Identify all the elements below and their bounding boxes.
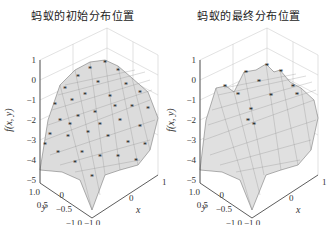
- z-tick: −1: [26, 95, 36, 105]
- z-tick: 0: [192, 75, 197, 85]
- svg-text:*: *: [124, 81, 128, 90]
- svg-text:*: *: [269, 91, 274, 101]
- z-tick: −4: [186, 155, 196, 165]
- svg-text:*: *: [106, 133, 110, 142]
- svg-text:*: *: [130, 103, 134, 112]
- svg-text:*: *: [76, 73, 80, 82]
- svg-text:*: *: [43, 141, 47, 150]
- svg-text:*: *: [83, 91, 87, 100]
- y-tick: −0.5: [56, 204, 73, 214]
- left-surface-plot: **** **** **** **** **** **** **** **** …: [0, 0, 166, 225]
- z-tick: −5: [186, 175, 196, 185]
- z-tick: −3: [186, 135, 196, 145]
- svg-text:*: *: [143, 141, 147, 150]
- svg-text:*: *: [68, 121, 72, 130]
- svg-text:*: *: [249, 105, 254, 115]
- svg-text:*: *: [93, 109, 97, 118]
- svg-text:*: *: [70, 97, 74, 106]
- x-axis-label: x: [295, 204, 301, 215]
- svg-text:*: *: [58, 117, 62, 126]
- x-tick: 1: [322, 177, 327, 187]
- z-axis-label: f(x, y): [3, 108, 15, 132]
- svg-text:*: *: [48, 131, 52, 140]
- svg-text:*: *: [244, 68, 249, 78]
- z-tick: 1: [192, 55, 197, 65]
- x-tick: 0: [289, 193, 294, 203]
- x-tick: 0: [129, 193, 134, 203]
- z-tick: −1: [186, 95, 196, 105]
- svg-text:*: *: [90, 173, 94, 182]
- svg-text:*: *: [265, 61, 270, 71]
- right-plot-panel: 蚂蚁的最终分布位置 **** **** ****: [166, 0, 332, 225]
- y-tick: −0.5: [216, 204, 233, 214]
- svg-text:*: *: [73, 159, 77, 168]
- svg-text:*: *: [257, 77, 262, 87]
- svg-text:*: *: [246, 116, 251, 126]
- svg-text:*: *: [76, 113, 80, 122]
- svg-text:*: *: [88, 65, 92, 74]
- y-tick: 0: [60, 190, 65, 200]
- y-axis-label: y: [201, 201, 207, 212]
- svg-text:*: *: [252, 120, 257, 130]
- svg-text:*: *: [223, 82, 228, 92]
- svg-text:*: *: [279, 67, 284, 77]
- z-tick: 0: [32, 75, 37, 85]
- svg-text:*: *: [98, 121, 102, 130]
- svg-text:*: *: [98, 153, 102, 162]
- svg-text:*: *: [146, 105, 150, 114]
- y-tick: 0: [220, 190, 225, 200]
- left-plot-panel: 蚂蚁的初始分布位置 ****: [0, 0, 166, 225]
- svg-text:*: *: [63, 85, 67, 94]
- z-axis-label: f(x, y): [166, 108, 177, 132]
- z-tick: 1: [32, 55, 37, 65]
- x-tick: −1.0: [84, 218, 101, 225]
- svg-text:*: *: [134, 157, 138, 166]
- svg-text:*: *: [138, 89, 142, 98]
- y-axis-label: y: [41, 201, 47, 212]
- svg-text:*: *: [116, 67, 120, 76]
- z-tick: −4: [26, 155, 36, 165]
- y-tick: −1.0: [66, 218, 83, 225]
- svg-text:*: *: [53, 101, 57, 110]
- z-tick: −3: [26, 135, 36, 145]
- svg-text:*: *: [116, 153, 120, 162]
- svg-text:*: *: [126, 139, 130, 148]
- svg-text:*: *: [113, 103, 117, 112]
- svg-text:*: *: [66, 133, 70, 142]
- svg-text:*: *: [138, 123, 142, 132]
- y-tick: 1.0: [29, 187, 41, 197]
- z-tick: −5: [26, 175, 36, 185]
- x-tick: −1.0: [244, 218, 261, 225]
- svg-text:*: *: [236, 90, 241, 100]
- svg-text:*: *: [56, 149, 60, 158]
- z-tick: −2: [26, 115, 36, 125]
- svg-text:*: *: [86, 129, 90, 138]
- svg-text:*: *: [96, 79, 100, 88]
- x-axis-label: x: [135, 204, 141, 215]
- y-tick: 1.0: [189, 187, 201, 197]
- y-tick: −1.0: [226, 218, 243, 225]
- svg-text:*: *: [103, 59, 107, 68]
- z-tick: −2: [186, 115, 196, 125]
- svg-text:*: *: [108, 93, 112, 102]
- svg-text:*: *: [80, 149, 84, 158]
- svg-text:*: *: [118, 117, 122, 126]
- right-surface-plot: **** **** **** 1 0 −1 −2 −3 −4 −5 1.0 0.…: [166, 0, 332, 225]
- svg-text:*: *: [295, 90, 300, 100]
